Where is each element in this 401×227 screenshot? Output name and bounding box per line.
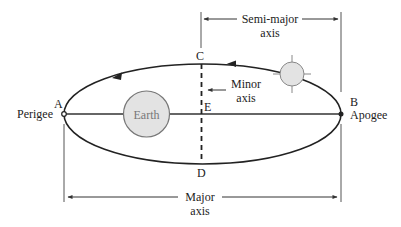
earth-label: Earth [134,108,160,122]
apogee-point [339,112,344,117]
perigee-label: Perigee [17,107,53,121]
point-d-label: D [197,166,206,180]
semi-major-label-line2: axis [260,26,280,40]
point-a-label: A [54,97,63,111]
point-b-label: B [350,95,358,109]
major-axis-label-line1: Major [185,190,214,204]
minor-axis-label-line1: Minor [231,77,261,91]
perigee-point [62,112,67,117]
semi-major-label-line1: Semi-major [242,12,299,26]
point-e-label: E [204,100,211,114]
apogee-label: Apogee [350,108,387,122]
orbit-direction-arrow-top [227,61,236,68]
orbit-diagram: Earth A B C D E Perigee Apogee Minor axi… [0,0,401,227]
minor-axis-label-line2: axis [236,91,256,105]
point-c-label: C [196,49,204,63]
satellite-icon [273,55,311,93]
major-axis-label-line2: axis [190,204,210,218]
